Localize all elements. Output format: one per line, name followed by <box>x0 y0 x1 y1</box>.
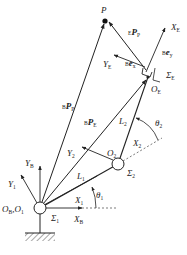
label-b-p-p: BPP <box>62 101 74 112</box>
label-sigma-1: Σ1 <box>50 213 59 224</box>
label-theta-1: θ1 <box>96 190 103 201</box>
label-x-2: X2 <box>132 138 142 149</box>
label-y-1: Y1 <box>8 179 16 190</box>
label-x-b: XB <box>73 214 84 225</box>
label-sigma-2: Σ2 <box>126 168 135 179</box>
label-l-1: L1 <box>76 171 85 182</box>
label-theta-2: θ2 <box>155 118 162 129</box>
label-b-e-y: Bey <box>162 47 173 58</box>
label-l-2: L2 <box>118 116 127 127</box>
point-p <box>102 18 107 23</box>
label-b-p-e: BPE <box>84 117 97 128</box>
label-e-p-p: EPP <box>128 27 140 38</box>
label-x-1: X1 <box>74 195 84 206</box>
x-1-axis <box>44 176 97 205</box>
label-y-b: YB <box>25 158 34 169</box>
label-o-b-o-1: OB,O1 <box>2 204 24 215</box>
label-o-2: O2 <box>107 148 117 159</box>
manipulator-diagram: P BPP BPE EPP XE Bey YE Bex ΣE OE L2 θ2 … <box>0 0 187 255</box>
label-p: P <box>100 5 107 15</box>
o-e-point <box>146 75 149 78</box>
label-o-e: OE <box>151 84 162 95</box>
x-2-dashed-axis <box>123 138 162 161</box>
joint-1 <box>34 202 46 214</box>
sigma-e-frame-mark <box>153 68 160 82</box>
joint-2 <box>112 158 124 170</box>
label-y-e: YE <box>103 59 112 70</box>
label-x-e: XE <box>170 22 181 33</box>
vector-b-p-p <box>42 24 104 202</box>
y-1-axis <box>21 175 37 203</box>
label-y-2: Y2 <box>67 148 75 159</box>
label-sigma-e: ΣE <box>165 70 175 81</box>
vector-b-p-e <box>43 80 146 204</box>
